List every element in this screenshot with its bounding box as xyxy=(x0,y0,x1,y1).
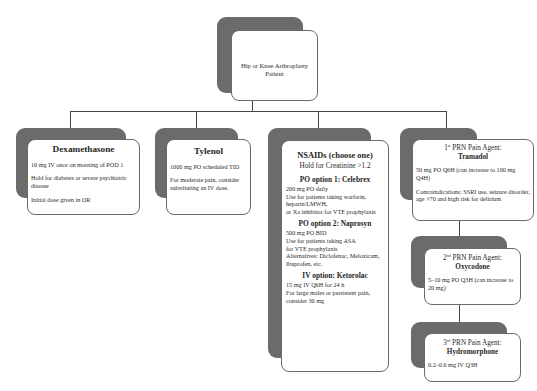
dexamethasone-node: Dexamethasone 10 mg IV once on morning o… xyxy=(27,139,140,215)
dexamethasone-title: Dexamethasone xyxy=(31,144,136,156)
tylenol-note: For moderate pain, consider substituting… xyxy=(170,176,247,192)
prn3-drug: Hydromorphone xyxy=(428,348,517,357)
root-title: Hip or Knee Arthroplasty Patient xyxy=(232,62,317,78)
nsaids-title: NSAIDs (choose one) xyxy=(286,151,384,162)
dexamethasone-note: Initial dose given in OR xyxy=(31,196,136,204)
ketorolac-line-3: consider 30 mg xyxy=(286,297,384,305)
ketorolac-heading: IV option: Ketorolac xyxy=(286,271,384,280)
tylenol-node: Tylenol 1000 mg PO scheduled TID For mod… xyxy=(166,139,251,215)
celebrex-line-1: 200 mg PO daily xyxy=(286,185,384,193)
tylenol-title: Tylenol xyxy=(170,146,247,158)
connector-prn2-prn3 xyxy=(459,305,460,322)
celebrex-line-4: or Xa inhibitor for VTE prophylaxis xyxy=(286,208,384,216)
prn1-label: 1st PRN Pain Agent: xyxy=(416,144,530,153)
prn3-dose: 0.2–0.6 mg IV Q3H xyxy=(428,361,517,369)
prn2-label: 2nd PRN Pain Agent: xyxy=(428,254,517,263)
prn1-node: 1st PRN Pain Agent: Tramadol 50 mg PO Q6… xyxy=(412,139,534,221)
prn2-dose: 5–10 mg PO Q3H (can increase to 20 mg) xyxy=(428,276,517,292)
celebrex-line-3: heparin/LMWH, xyxy=(286,200,384,208)
root-node: Hip or Knee Arthroplasty Patient xyxy=(231,30,318,101)
prn2-drug: Oxycodone xyxy=(428,263,517,272)
prn3-node: 3rd PRN Pain Agent: Hydromorphone 0.2–0.… xyxy=(424,333,521,382)
naprosyn-line-4: Alternatives: Diclofenac, Meloxicam, xyxy=(286,252,384,260)
connector-dexamethasone xyxy=(70,111,71,128)
prn2-node: 2nd PRN Pain Agent: Oxycodone 5–10 mg PO… xyxy=(424,248,521,305)
dexamethasone-hold: Hold for diabetes or severe psychiatric … xyxy=(31,174,136,190)
dexamethasone-dose: 10 mg IV once on morning of POD 1 xyxy=(31,161,136,169)
prn3-label: 3rd PRN Pain Agent: xyxy=(428,339,517,348)
connector-tylenol xyxy=(196,111,197,128)
naprosyn-heading: PO option 2: Naprosyn xyxy=(286,219,384,228)
celebrex-line-2: Use for patients taking warfarin, xyxy=(286,193,384,201)
prn1-contraindications: Contraindications: SSRI use, seizure dis… xyxy=(416,188,530,204)
connector-horizontal xyxy=(70,111,447,112)
naprosyn-line-2: Use for patients taking ASA xyxy=(286,237,384,245)
connector-nsaids xyxy=(318,111,319,128)
tylenol-dose: 1000 mg PO scheduled TID xyxy=(170,163,247,171)
ketorolac-line-2: For large males or persistent pain, xyxy=(286,289,384,297)
naprosyn-line-5: Ibuprofen, etc. xyxy=(286,260,384,268)
ketorolac-line-1: 15 mg IV Q6H for 24 h xyxy=(286,281,384,289)
prn1-dose: 50 mg PO Q6H (can increase to 100 mg Q4H… xyxy=(416,166,530,182)
nsaids-node: NSAIDs (choose one) Hold for Creatinine … xyxy=(281,140,389,372)
celebrex-heading: PO option 1: Celebrex xyxy=(286,175,384,184)
nsaids-subtitle: Hold for Creatinine >1.2 xyxy=(286,162,384,171)
connector-prn1 xyxy=(446,111,447,128)
naprosyn-line-1: 500 mg PO BID xyxy=(286,229,384,237)
prn1-drug: Tramadol xyxy=(416,153,530,162)
connector-prn1-prn2 xyxy=(459,220,460,236)
naprosyn-line-3: for VTE prophylaxis xyxy=(286,245,384,253)
